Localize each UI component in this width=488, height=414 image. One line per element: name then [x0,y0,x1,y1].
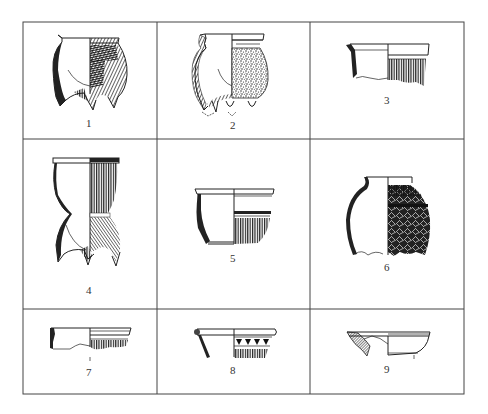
vessel-8-drawing [194,329,277,358]
vessel-7-label: 7 [86,366,92,378]
vessel-3-drawing [346,44,429,86]
vessel-7-drawing [50,328,131,361]
vessel-5-drawing [195,189,274,244]
pottery-plate: 1 2 3 [0,0,488,414]
vessel-2-label: 2 [230,119,236,131]
vessel-6-drawing [346,177,430,256]
vessel-9-label: 9 [384,363,390,375]
vessel-1-drawing [53,35,127,110]
triangle-band [236,339,269,345]
vessel-6-label: 6 [384,261,390,273]
vessel-4-drawing [53,158,120,266]
vessel-9-drawing [347,332,430,359]
vessel-2-drawing [192,34,268,116]
vessel-4-label: 4 [86,284,92,296]
vessel-8-label: 8 [230,364,236,376]
vessel-5-label: 5 [230,252,236,264]
vessel-3-label: 3 [384,94,390,106]
vessel-1-label: 1 [86,117,92,129]
